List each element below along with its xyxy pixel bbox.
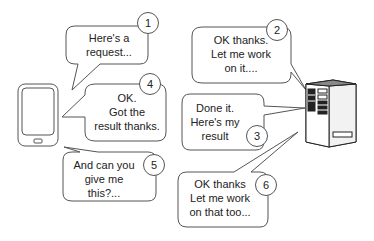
bubble-3-text: Done it. Here's my result — [184, 101, 246, 143]
bubble-1-text: Here's a request... — [72, 31, 146, 59]
step-6-badge: 6 — [255, 174, 277, 196]
phone-icon — [18, 84, 58, 146]
step-1-badge: 1 — [137, 12, 159, 34]
bubble-4-text: OK. Got the result thanks. — [88, 91, 166, 133]
step-2-badge: 2 — [266, 19, 288, 41]
bubble-5-text: And can you give me this?... — [62, 158, 146, 200]
step-3-badge: 3 — [246, 125, 268, 147]
bubble-6-text: OK thanks Let me work on that too... — [180, 177, 260, 219]
server-icon — [306, 80, 356, 147]
step-5-badge: 5 — [143, 154, 165, 176]
step-4-badge: 4 — [139, 73, 161, 95]
